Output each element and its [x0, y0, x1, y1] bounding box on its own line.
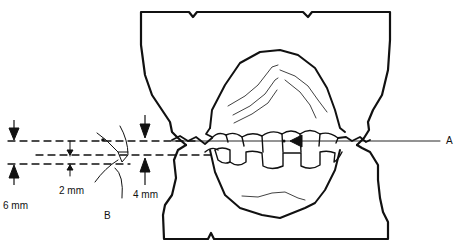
- arrow-left-icon: [290, 135, 302, 147]
- palate-left-nub: [206, 128, 212, 137]
- lower-teeth: [205, 148, 342, 169]
- label-2mm: 2 mm: [59, 186, 84, 196]
- palatal-rugae: [228, 65, 327, 123]
- left-interlock: [172, 136, 212, 144]
- palate-outline: [210, 50, 345, 132]
- label-a: A: [446, 136, 453, 146]
- arrow-down-icon: [9, 128, 19, 140]
- arrow-up-icon: [140, 158, 150, 172]
- measurement-arrows: [9, 115, 302, 185]
- arrow-down-icon: [140, 124, 150, 138]
- lower-cast-outline: [163, 145, 388, 239]
- arrow-up-icon: [9, 165, 19, 178]
- arrow-small-down-icon: [67, 150, 73, 155]
- incisor-point: [101, 138, 105, 142]
- arrow-small-up-icon: [67, 165, 73, 170]
- label-4mm: 4 mm: [133, 190, 158, 200]
- lower-ridge-detail: [242, 192, 305, 200]
- label-b: B: [104, 211, 111, 221]
- upper-cast-outline: [141, 12, 390, 145]
- dental-diagram: [0, 0, 459, 247]
- label-6mm: 6 mm: [3, 201, 28, 211]
- incisor-profile-b: [95, 126, 128, 198]
- center-point: [283, 140, 286, 143]
